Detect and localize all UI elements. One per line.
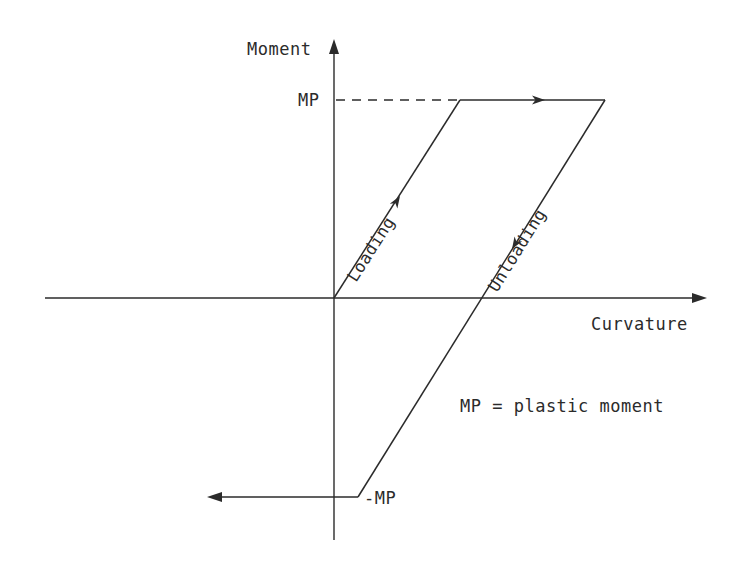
legend-note-label: MP = plastic moment (460, 396, 664, 416)
figure-canvas: Moment Curvature MP -MP Loading Unloadin… (0, 0, 741, 570)
moment-curvature-diagram: Moment Curvature MP -MP Loading Unloadin… (0, 0, 741, 570)
y-axis-label: Moment (247, 39, 311, 59)
loading-branch-group (334, 96, 605, 299)
unloading-branch-group (207, 100, 605, 502)
y-axis-arrowhead-icon (329, 39, 339, 54)
axes-group (45, 39, 707, 540)
mp-positive-tick-label: MP (298, 90, 319, 110)
x-axis-label: Curvature (591, 314, 688, 334)
unloading-branch-label: Unloading (484, 205, 550, 295)
mp-negative-tick-label: -MP (364, 488, 396, 508)
negative-plateau-arrowhead-icon (207, 492, 222, 502)
labels-group: Moment Curvature MP -MP Loading Unloadin… (247, 39, 688, 508)
x-axis-arrowhead-icon (692, 293, 707, 303)
loading-branch-label: Loading (343, 213, 398, 285)
